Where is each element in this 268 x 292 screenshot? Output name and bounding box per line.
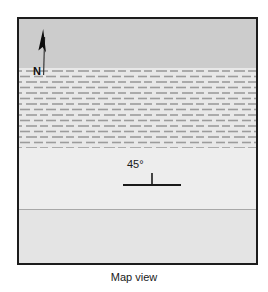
map-frame: N 45° <box>17 17 258 265</box>
figure-caption: Map view <box>0 271 268 283</box>
north-label: N <box>33 66 41 77</box>
dip-angle-label: 45° <box>127 159 144 170</box>
map-view-figure: N 45° Map view <box>0 0 268 292</box>
